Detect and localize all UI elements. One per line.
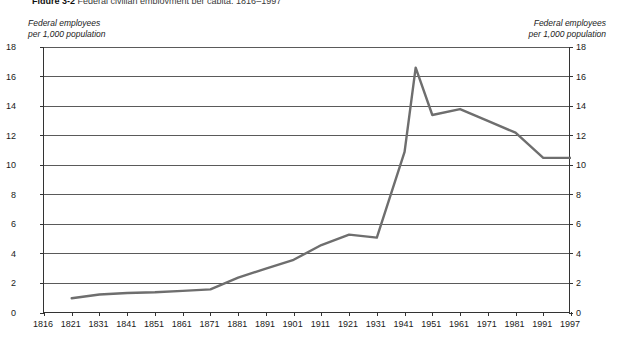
y-axis-caption-right-line2: per 1,000 population xyxy=(528,29,606,40)
y-axis-label-left-2: 2 xyxy=(0,279,16,288)
y-axis-label-left-16: 16 xyxy=(0,73,16,82)
x-axis-label-1831: 1831 xyxy=(88,320,108,329)
y-axis-caption-left: Federal employees per 1,000 population xyxy=(28,18,106,39)
y-axis-label-right-8: 8 xyxy=(576,191,600,200)
series-line-0 xyxy=(72,68,571,299)
x-axis-label-1851: 1851 xyxy=(144,320,164,329)
y-axis-label-right-0: 0 xyxy=(576,309,600,318)
figure-title-text: Federal civilian employment per capita, … xyxy=(78,0,282,4)
x-axis-label-1981: 1981 xyxy=(505,320,525,329)
x-axis-label-1911: 1911 xyxy=(311,320,330,329)
y-axis-label-right-2: 2 xyxy=(576,279,600,288)
y-axis-label-right-12: 12 xyxy=(576,132,600,141)
y-axis-label-right-18: 18 xyxy=(576,43,600,52)
x-axis-label-1901: 1901 xyxy=(283,320,303,329)
x-axis-label-1991: 1991 xyxy=(532,320,552,329)
x-tickmark-1997 xyxy=(571,312,572,316)
figure-number: Figure 3-2 xyxy=(32,0,75,4)
line-series xyxy=(44,47,571,313)
y-axis-label-right-4: 4 xyxy=(576,250,600,259)
x-axis-label-1816: 1816 xyxy=(33,320,53,329)
y-axis-label-left-12: 12 xyxy=(0,132,16,141)
y-axis-label-right-16: 16 xyxy=(576,73,600,82)
x-axis-label-1931: 1931 xyxy=(366,320,386,329)
chart-plot-area xyxy=(43,47,570,313)
x-axis-label-1921: 1921 xyxy=(338,320,358,329)
x-axis-label-1821: 1821 xyxy=(61,320,81,329)
x-axis-label-1951: 1951 xyxy=(421,320,441,329)
y-axis-label-left-10: 10 xyxy=(0,161,16,170)
x-axis-label-1841: 1841 xyxy=(116,320,136,329)
y-axis-caption-right: Federal employees per 1,000 population xyxy=(528,18,606,39)
x-axis-label-1961: 1961 xyxy=(449,320,469,329)
y-axis-caption-left-line2: per 1,000 population xyxy=(28,29,106,40)
x-axis-label-1881: 1881 xyxy=(227,320,247,329)
x-axis-label-1997: 1997 xyxy=(560,320,580,329)
y-axis-label-left-8: 8 xyxy=(0,191,16,200)
y-axis-label-left-18: 18 xyxy=(0,43,16,52)
y-axis-label-right-10: 10 xyxy=(576,161,600,170)
y-axis-label-left-0: 0 xyxy=(0,309,16,318)
figure-title: Figure 3-2 Federal civilian employment p… xyxy=(32,0,281,4)
y-axis-caption-right-line1: Federal employees xyxy=(528,18,606,29)
y-axis-label-left-4: 4 xyxy=(0,250,16,259)
y-axis-label-right-14: 14 xyxy=(576,102,600,111)
y-axis-label-left-14: 14 xyxy=(0,102,16,111)
x-axis-label-1941: 1941 xyxy=(394,320,414,329)
x-axis-label-1871: 1871 xyxy=(199,320,219,329)
x-axis-label-1861: 1861 xyxy=(172,320,192,329)
y-axis-caption-left-line1: Federal employees xyxy=(28,18,106,29)
y-axis-label-right-6: 6 xyxy=(576,220,600,229)
y-axis-label-left-6: 6 xyxy=(0,220,16,229)
x-axis-label-1891: 1891 xyxy=(255,320,275,329)
x-axis-label-1971: 1971 xyxy=(477,320,497,329)
